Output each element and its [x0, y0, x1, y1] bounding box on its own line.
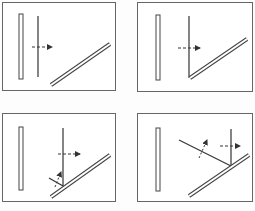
source-slit [19, 14, 23, 79]
diagram-drawing [0, 0, 255, 211]
panel-2-content [156, 15, 247, 80]
panel-4-content [156, 128, 249, 196]
source-slit [19, 127, 23, 190]
reflected-arrow [199, 140, 207, 158]
panel-3-content [19, 127, 110, 197]
panel-1-content [19, 14, 110, 85]
source-slit [156, 15, 160, 80]
reflected-wavefront [179, 140, 231, 166]
source-slit [156, 128, 160, 191]
reflected-wavefront [49, 178, 63, 186]
